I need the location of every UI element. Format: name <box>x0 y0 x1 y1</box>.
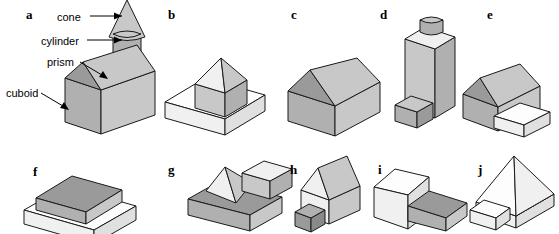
panel-letter-g: g <box>168 163 175 176</box>
arrow-head-cuboid <box>60 102 69 110</box>
shape-i <box>371 163 471 231</box>
shape-f <box>22 172 142 234</box>
geometry-shapes-figure: a cone cylinder prism cuboid b <box>0 0 559 234</box>
shape-j <box>470 152 559 234</box>
shape-g <box>186 157 296 229</box>
tall-cuboid-front-i <box>374 187 408 229</box>
panel-letter-c: c <box>291 8 297 21</box>
arrow-head-cylinder <box>114 37 122 44</box>
panel-letter-d: d <box>380 8 387 21</box>
panel-letter-b: b <box>168 8 175 21</box>
shape-c <box>285 55 395 140</box>
shape-h <box>293 152 373 234</box>
arrow-head-prism <box>99 71 108 79</box>
panel-letter-e: e <box>487 8 493 21</box>
shape-b <box>163 48 273 138</box>
arrow-head-cone <box>114 13 122 20</box>
shape-e <box>458 52 558 137</box>
tower-side-d <box>435 37 455 118</box>
